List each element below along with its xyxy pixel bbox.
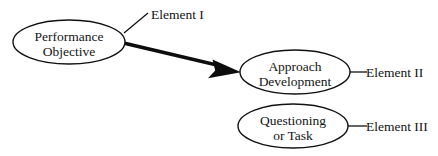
connector-objective-to-approach [124, 41, 241, 78]
tapered-arrow-shaft [124, 41, 216, 66]
diagram-svg: Performance Objective Approach Developme… [0, 0, 438, 156]
node-label-line2: or Task [273, 128, 313, 143]
node-approach-development[interactable]: Approach Development [240, 50, 350, 94]
callout-label-element-2: Element II [366, 65, 424, 80]
node-label-line1: Performance [35, 29, 104, 44]
node-label-line1: Approach [268, 59, 321, 74]
node-label-line1: Questioning [260, 113, 326, 128]
callout-label-element-3: Element III [366, 119, 428, 134]
callout-label-element-1: Element I [151, 7, 204, 22]
node-performance-objective[interactable]: Performance Objective [13, 20, 125, 64]
node-label-line2: Objective [43, 44, 95, 59]
node-label-line2: Development [259, 74, 332, 89]
leader-line-element-1 [124, 13, 148, 33]
diagram-canvas: Performance Objective Approach Developme… [0, 0, 438, 156]
node-questioning-or-task[interactable]: Questioning or Task [238, 104, 348, 148]
